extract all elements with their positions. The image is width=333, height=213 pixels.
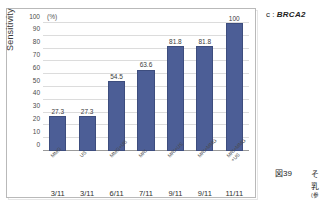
- plot-area: 1009080706050403020100 27.327.354.563.68…: [43, 23, 249, 151]
- panel-label-gene: BRCA2: [277, 10, 306, 19]
- y-axis-tick-label: 40: [33, 90, 40, 97]
- bar-slot: 27.3: [43, 23, 72, 151]
- bar-value-label: 27.3: [81, 109, 94, 116]
- y-axis-tick-label: 90: [33, 26, 40, 33]
- bar-value-label: 27.3: [51, 109, 64, 116]
- bar-slot: 63.6: [131, 23, 160, 151]
- y-axis-tick-label: 20: [33, 116, 40, 123]
- figure-caption: 図39: [275, 169, 296, 180]
- bar: [137, 70, 154, 151]
- chart-frame: (%) Sensitivity 1009080706050403020100 2…: [6, 8, 256, 198]
- cat-slot: MRI+US: [161, 155, 190, 185]
- cat-slot: MMG: [43, 155, 72, 185]
- bar: [226, 23, 243, 151]
- caption-line-2: 乳: [311, 181, 319, 193]
- x-axis-category-labels: MMGUSMMG+USMRIMRI+USMRI+MMGMRI+MMG+US: [43, 155, 249, 185]
- figure-caption-body: そ 乳 (参: [311, 169, 319, 200]
- y-axis-tick-label: 100: [29, 13, 40, 20]
- cat-slot: MRI: [131, 155, 160, 185]
- caption-line-3: (参: [311, 192, 319, 200]
- y-axis-tick-label: 10: [33, 128, 40, 135]
- x-axis-category-label: MRI: [138, 149, 149, 160]
- bar-value-label: 54.5: [110, 74, 123, 81]
- bar: [167, 46, 184, 151]
- caption-line-1: そ: [311, 169, 319, 181]
- cat-slot: MRI+MMG+US: [220, 155, 249, 185]
- x-axis-fraction-label: 6/11: [102, 189, 131, 201]
- bar: [79, 116, 96, 151]
- x-axis-fraction-label: 7/11: [131, 189, 160, 201]
- bar-value-label: 63.6: [140, 62, 153, 69]
- bar-value-label: 81.8: [198, 39, 211, 46]
- figure-number: 図39: [275, 169, 292, 180]
- x-axis-category-label: US: [79, 150, 88, 159]
- panel-label-prefix: c :: [266, 10, 274, 19]
- bar-slot: 81.8: [161, 23, 190, 151]
- bar-slot: 27.3: [72, 23, 101, 151]
- x-axis-fraction-label: 11/11: [220, 189, 249, 201]
- y-axis-tick-label: 0: [36, 141, 40, 148]
- panel-label: c : BRCA2: [266, 10, 306, 19]
- bar-series: 27.327.354.563.681.881.8100: [43, 23, 249, 151]
- y-axis-title: Sensitivity: [5, 8, 15, 51]
- x-axis-fraction-label: 9/11: [161, 189, 190, 201]
- x-axis-fraction-label: 3/11: [43, 189, 72, 201]
- x-axis-fraction-label: 3/11: [72, 189, 101, 201]
- y-axis-tick-label: 70: [33, 52, 40, 59]
- bar-slot: 54.5: [102, 23, 131, 151]
- y-axis-tick-label: 50: [33, 77, 40, 84]
- y-axis-unit: (%): [47, 13, 57, 20]
- y-axis-tick-label: 80: [33, 39, 40, 46]
- y-axis-tick-label: 30: [33, 103, 40, 110]
- cat-slot: US: [72, 155, 101, 185]
- bar-value-label: 81.8: [169, 39, 182, 46]
- cat-slot: MRI+MMG: [190, 155, 219, 185]
- bar-value-label: 100: [229, 16, 240, 23]
- bar-slot: 81.8: [190, 23, 219, 151]
- x-axis-fraction-label: 9/11: [190, 189, 219, 201]
- bar: [196, 46, 213, 151]
- x-axis-fraction-labels: 3/113/116/117/119/119/1111/11: [43, 189, 249, 201]
- cat-slot: MMG+US: [102, 155, 131, 185]
- figure-page: (%) Sensitivity 1009080706050403020100 2…: [0, 0, 333, 213]
- y-axis-tick-label: 60: [33, 64, 40, 71]
- bar-slot: 100: [220, 23, 249, 151]
